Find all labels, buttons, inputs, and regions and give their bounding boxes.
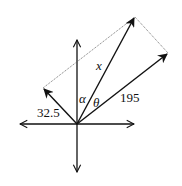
vector-195 xyxy=(77,54,167,124)
parallelogram-side-top xyxy=(43,17,135,88)
vector-diagram: 32.5 195 x α θ xyxy=(0,0,182,186)
vector-x-resultant xyxy=(77,18,134,124)
label-32-5: 32.5 xyxy=(37,105,60,120)
parallelogram-side-right xyxy=(135,17,168,53)
label-theta: θ xyxy=(93,95,100,110)
label-alpha: α xyxy=(79,91,87,106)
label-x: x xyxy=(95,58,102,73)
label-195: 195 xyxy=(120,90,140,105)
